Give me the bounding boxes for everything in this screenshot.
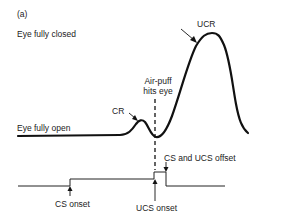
air-puff-label-line1: Air-puff [136, 76, 180, 86]
air-puff-label-line2: hits eye [136, 86, 180, 96]
cs-onset-label: CS onset [55, 199, 90, 209]
stimulus-trace [18, 172, 225, 186]
offset-arrow-icon [164, 162, 169, 172]
ucr-label: UCR [197, 19, 215, 29]
cs-onset-arrow-icon [68, 186, 73, 196]
cs-ucs-offset-label: CS and UCS offset [164, 153, 236, 163]
cr-label: CR [112, 106, 124, 116]
cr-pointer-arrow [129, 113, 138, 121]
ucs-onset-label: UCS onset [136, 203, 177, 213]
air-puff-label: Air-puff hits eye [136, 76, 180, 96]
ucr-pointer-arrow [181, 29, 197, 43]
eyelid-response-curve [18, 33, 248, 137]
eye-fully-closed-label: Eye fully closed [17, 29, 76, 39]
eye-fully-open-label: Eye fully open [17, 123, 70, 133]
panel-label: (a) [17, 9, 27, 19]
ucs-onset-arrow-icon [153, 179, 158, 201]
